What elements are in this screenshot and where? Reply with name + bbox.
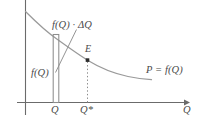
x-tick-label-q: Q — [51, 105, 59, 116]
figure-container: f(Q) · ΔQ f(Q) E P = f(Q) Q Q* Q — [0, 0, 197, 130]
x-tick-label-q-star: Q* — [80, 105, 93, 116]
point-marker-e — [86, 58, 90, 62]
label-f-of-q: f(Q) — [31, 68, 49, 79]
label-f-of-q-times-delta-q: f(Q) · ΔQ — [52, 20, 92, 31]
label-curve-p-equals-f-of-q: P = f(Q) — [146, 65, 183, 76]
label-equilibrium-point-e: E — [85, 44, 91, 54]
x-axis-label-q: Q — [183, 105, 191, 116]
